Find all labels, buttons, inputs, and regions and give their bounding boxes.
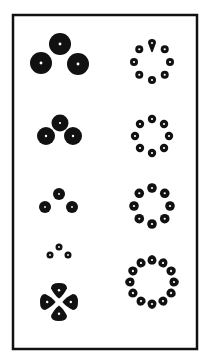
- dot-center-icon: [139, 147, 141, 149]
- dot-center-icon: [70, 301, 72, 303]
- teardrop-dot: [148, 39, 156, 52]
- ring-dot: [125, 278, 134, 287]
- dot-center-icon: [139, 123, 141, 125]
- dot-center-icon: [164, 218, 166, 220]
- ring-8-medium: [129, 183, 175, 229]
- ring-12: [125, 255, 179, 309]
- dot-center-icon: [151, 79, 153, 81]
- dot-center-icon: [58, 313, 60, 315]
- trio-large: [30, 33, 89, 75]
- ring-dot: [157, 295, 170, 308]
- ring-dot: [165, 265, 178, 278]
- dot-center-icon: [133, 61, 135, 63]
- dot-center-icon: [67, 254, 69, 256]
- dot-center-icon: [138, 192, 140, 194]
- dot-center-icon: [58, 193, 60, 195]
- dot-center-icon: [59, 43, 62, 46]
- dot-center-icon: [151, 259, 153, 261]
- dot-center-icon: [151, 187, 153, 189]
- dot-center-icon: [163, 147, 165, 149]
- dot-center-icon: [45, 135, 47, 137]
- dot-center-icon: [173, 281, 175, 283]
- dot-center-icon: [129, 281, 131, 283]
- trio-touching: [37, 115, 82, 146]
- dot-center-icon: [77, 63, 80, 66]
- dot-center-icon: [151, 223, 153, 225]
- left-column-trios: [30, 33, 89, 259]
- dot-center-icon: [164, 74, 166, 76]
- dot-center-icon: [151, 118, 153, 120]
- four-lobe-clover: [40, 283, 78, 321]
- dot-center-icon: [72, 135, 74, 137]
- clover-lobe: [51, 283, 67, 299]
- clover-lobe: [40, 294, 56, 310]
- dot-center-icon: [58, 289, 60, 291]
- dot-center-icon: [49, 254, 51, 256]
- dot-center-icon: [138, 48, 140, 50]
- dot-center-icon: [164, 192, 166, 194]
- dot-center-icon: [164, 48, 166, 50]
- dot-center-icon: [133, 205, 135, 207]
- trio-small: [47, 244, 72, 259]
- dot-center-icon: [169, 61, 171, 63]
- dot-center-icon: [151, 42, 153, 44]
- dot-center-icon: [151, 152, 153, 154]
- right-column-rings: [125, 39, 179, 309]
- dot-center-icon: [134, 135, 136, 137]
- dot-center-icon: [151, 303, 153, 305]
- dot-center-icon: [163, 123, 165, 125]
- ring-dot: [126, 287, 139, 300]
- dot-center-icon: [71, 206, 73, 208]
- dot-center-icon: [59, 122, 61, 124]
- dot-center-icon: [40, 62, 43, 65]
- dot-center-icon: [138, 218, 140, 220]
- ring-dot: [148, 255, 157, 264]
- dot-center-icon: [168, 135, 170, 137]
- ring-dot: [135, 256, 148, 269]
- clover-lobe: [51, 305, 67, 321]
- dot-center-icon: [169, 205, 171, 207]
- ring-dot: [165, 287, 178, 300]
- dot-center-icon: [138, 74, 140, 76]
- trio-medium: [39, 188, 78, 213]
- ring-dot: [126, 265, 139, 278]
- ring-8-small: [131, 115, 173, 157]
- dot-center-icon: [44, 206, 46, 208]
- dot-center-icon: [58, 246, 60, 248]
- ring-dot: [135, 295, 148, 308]
- ring-8-teardrop: [130, 39, 174, 84]
- clover-lobe: [62, 294, 78, 310]
- ring-dot: [170, 278, 179, 287]
- dot-center-icon: [46, 301, 48, 303]
- dot-pattern-diagram: [0, 0, 207, 361]
- ring-dot: [157, 256, 170, 269]
- ring-dot: [148, 300, 157, 309]
